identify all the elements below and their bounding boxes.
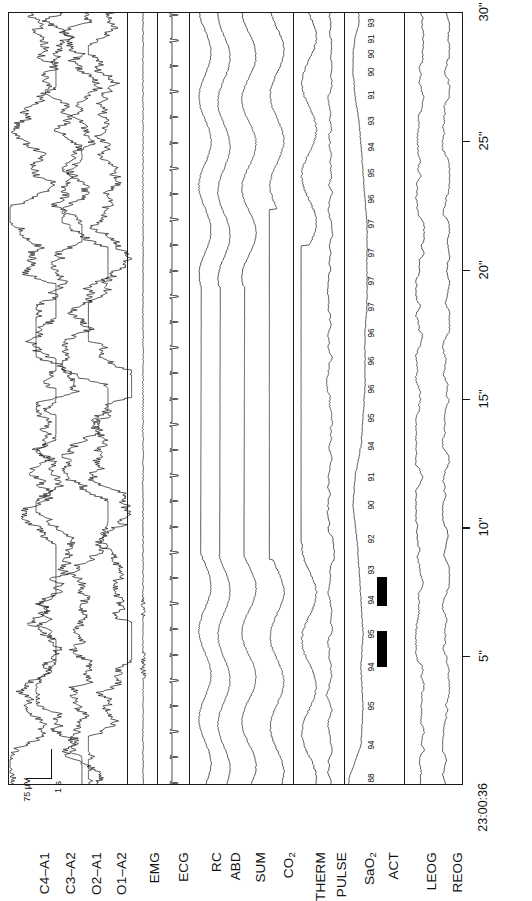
channel-label-o1a2: O1–A2 — [115, 852, 129, 895]
channel-label-pulse: PULSE — [335, 852, 349, 897]
time-tick-label-20: 20" — [477, 260, 490, 279]
channel-label-abd: ABD — [229, 852, 243, 880]
time-tick-label-15: 15" — [477, 389, 490, 408]
channel-label-c4a1: C4–A1 — [38, 852, 52, 894]
sao2-value-label: 93 — [367, 19, 375, 28]
recording-start-time: 23:00:36 — [477, 783, 490, 832]
channel-group-separator-5 — [404, 13, 405, 784]
channel-label-ecg: ECG — [177, 852, 191, 882]
time-tick-label-30: 30" — [477, 2, 490, 21]
sao2-value-label: 90 — [367, 50, 375, 59]
channel-group-separator-4 — [344, 13, 345, 784]
time-tick-label-25: 25" — [477, 131, 490, 150]
channel-label-rc: RC — [210, 852, 224, 872]
channel-group-separator-0 — [127, 13, 128, 784]
calibration-amplitude-label: 75 µV — [23, 778, 32, 802]
calibration-amplitude-bar — [51, 749, 52, 779]
channel-label-sum: SUM — [254, 852, 268, 883]
sao2-value-label: 94 — [367, 663, 375, 672]
channel-group-separator-2 — [189, 13, 190, 784]
time-tick-5 — [463, 656, 470, 657]
sao2-value-label: 94 — [367, 596, 375, 605]
trace-o1-a2 — [88, 13, 131, 785]
sao2-value-label: 96 — [367, 385, 375, 394]
chart-plot-area: 8894959495949392909194959696969797979796… — [8, 12, 463, 785]
sao2-value-label: 91 — [367, 472, 375, 481]
trace-co2 — [269, 13, 284, 785]
sao2-value-label: 96 — [367, 356, 375, 365]
sao2-value-label: 91 — [367, 91, 375, 100]
channel-label-therm: THERM — [314, 852, 328, 901]
trace-o2-a1 — [62, 13, 108, 785]
act-event-bar-1 — [377, 631, 387, 667]
sao2-value-label: 95 — [367, 701, 375, 710]
sao2-value-label: 95 — [367, 629, 375, 638]
trace-sao2 — [349, 13, 368, 785]
sao2-value-label: 97 — [367, 248, 375, 257]
channel-label-row: C4–A1C3–A2O2–A1O1–A2EMGECGRCABDSUMCO2THE… — [0, 790, 532, 860]
trace-sum — [242, 13, 257, 785]
channel-label-sao2: SaO2 — [363, 852, 377, 885]
trace-therm — [301, 13, 317, 785]
sao2-value-label: 94 — [367, 441, 375, 450]
calibration-time-label: 1 s — [54, 781, 63, 793]
sao2-value-label: 93 — [367, 117, 375, 126]
sao2-value-label: 93 — [367, 565, 375, 574]
sao2-value-label: 97 — [367, 276, 375, 285]
sao2-value-label: 90 — [367, 68, 375, 77]
channel-label-act: ACT — [387, 852, 401, 880]
trace-leog — [415, 13, 424, 785]
time-tick-label-10: 10" — [477, 518, 490, 537]
waveform-traces — [9, 13, 463, 785]
time-tick-15 — [463, 399, 470, 400]
time-tick-10 — [463, 527, 470, 528]
act-event-bar-2 — [377, 577, 387, 605]
sao2-value-label: 94 — [367, 142, 375, 151]
trace-c3-a2 — [36, 13, 82, 785]
sao2-value-label: 95 — [367, 413, 375, 422]
trace-rc — [199, 13, 212, 785]
trace-emg — [140, 13, 146, 785]
sao2-value-label: 94 — [367, 740, 375, 749]
sao2-value-label: 92 — [367, 534, 375, 543]
channel-label-reog: REOG — [451, 852, 465, 893]
trace-ecg — [170, 13, 179, 785]
time-tick-20 — [463, 270, 470, 271]
channel-label-o2a1: O2–A1 — [90, 852, 104, 895]
channel-label-co2: CO2 — [282, 852, 296, 878]
sao2-value-label: 88 — [367, 774, 375, 783]
channel-label-c3a2: C3–A2 — [64, 852, 78, 894]
channel-group-separator-1 — [157, 13, 158, 784]
sao2-value-label: 96 — [367, 194, 375, 203]
sao2-value-label: 97 — [367, 302, 375, 311]
trace-pulse — [326, 13, 335, 785]
time-tick-25 — [463, 141, 470, 142]
channel-group-separator-3 — [293, 13, 294, 784]
time-tick-label-5: 5" — [477, 650, 490, 662]
sao2-value-label: 95 — [367, 168, 375, 177]
time-axis: 23:00:36 5"10"15"20"25"30" — [463, 12, 532, 792]
channel-label-emg: EMG — [148, 852, 162, 883]
sao2-value-label: 91 — [367, 34, 375, 43]
channel-label-leog: LEOG — [425, 852, 439, 890]
sao2-value-label: 97 — [367, 220, 375, 229]
sao2-value-label: 90 — [367, 501, 375, 510]
trace-reog — [442, 13, 450, 785]
trace-abd — [218, 13, 231, 785]
sao2-value-label: 96 — [367, 328, 375, 337]
